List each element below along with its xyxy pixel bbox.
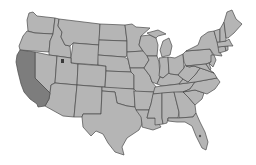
state-mt[interactable] (58, 19, 100, 46)
state-sd[interactable] (98, 40, 127, 57)
state-fl[interactable] (168, 113, 208, 150)
great-salt-lake-marker (61, 59, 64, 63)
state-nm[interactable] (74, 85, 102, 117)
state-nd[interactable] (99, 24, 127, 41)
lake-marker (199, 135, 201, 137)
state-me[interactable] (224, 10, 242, 38)
us-map (0, 0, 256, 165)
state-co[interactable] (77, 64, 106, 87)
state-wy[interactable] (71, 43, 99, 65)
state-wa[interactable] (27, 12, 55, 34)
state-ks[interactable] (105, 71, 134, 89)
state-or[interactable] (19, 31, 53, 52)
